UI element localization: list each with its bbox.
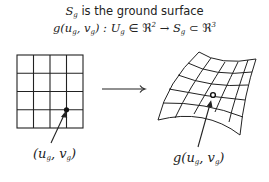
surface-point <box>211 93 216 98</box>
parameter-label: (ug, vg) <box>33 146 76 162</box>
surface-point-label: g(ug, vg) <box>173 150 224 166</box>
surface-pointer-arrow <box>198 102 212 148</box>
parameter-point <box>64 107 69 112</box>
parameter-grid <box>17 55 83 128</box>
mapping-arrow-icon <box>102 86 145 93</box>
ground-surface-mesh <box>158 52 256 135</box>
